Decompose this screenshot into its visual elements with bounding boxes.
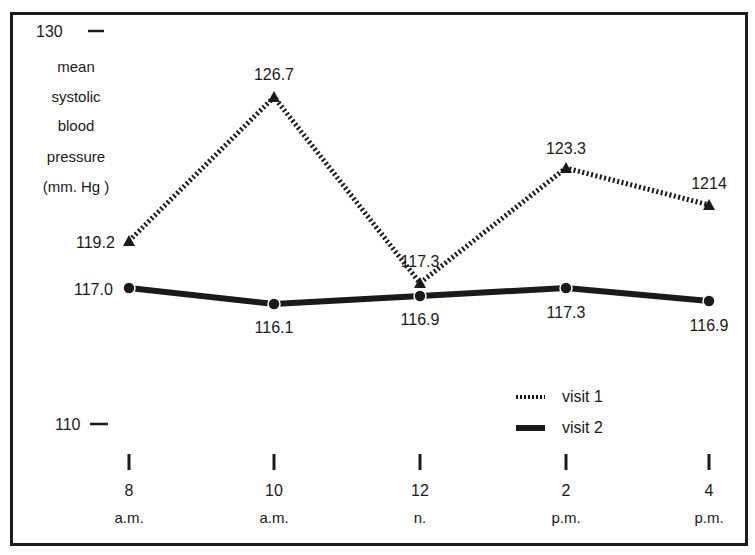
x-tick-period: p.m. — [694, 509, 723, 526]
data-label-v1-8am: 119.2 — [76, 234, 115, 251]
x-tick-number: 10 — [265, 482, 283, 499]
x-tick-number: 4 — [705, 482, 714, 499]
legend-visit-2-label: visit 2 — [562, 419, 603, 436]
svg-text:systolic: systolic — [51, 88, 101, 105]
svg-text:(mm. Hg ): (mm. Hg ) — [43, 178, 110, 195]
data-label-v1-2pm: 123.3 — [546, 140, 586, 157]
data-label-v1-10am: 126.7 — [254, 66, 294, 83]
triangle-marker — [268, 91, 280, 102]
chart-canvas: 130 110 mean systolic blood pressure (mm… — [0, 0, 755, 555]
x-tick-number: 2 — [562, 482, 571, 499]
data-label-v2-2pm: 117.3 — [547, 304, 586, 321]
data-label-v2-4pm: 116.9 — [690, 317, 729, 334]
x-tick-period: a.m. — [259, 509, 288, 526]
data-label-v2-8am: 117.0 — [74, 281, 113, 298]
data-label-v2-12n: 116.9 — [401, 311, 440, 328]
x-tick-period: p.m. — [551, 509, 580, 526]
x-axis: 8 10 12 2 4 a.m. a.m. n. p.m. p.m. — [114, 454, 723, 526]
svg-text:mean: mean — [57, 58, 95, 75]
circle-marker — [560, 282, 572, 294]
y-tick-130: 130 — [36, 23, 63, 40]
y-tick-110: 110 — [55, 416, 81, 433]
x-tick-number: 12 — [411, 482, 429, 499]
circle-marker — [414, 290, 426, 302]
legend-visit-1-label: visit 1 — [562, 388, 603, 405]
y-axis-label: mean systolic blood pressure (mm. Hg ) — [43, 58, 110, 195]
data-label-v1-12n: 117.3 — [401, 253, 440, 270]
circle-marker — [268, 298, 280, 310]
x-tick-period: n. — [414, 509, 427, 526]
x-tick-period: a.m. — [114, 509, 143, 526]
data-label-v1-4pm: 1214 — [691, 175, 727, 192]
svg-text:pressure: pressure — [47, 148, 105, 165]
x-tick-number: 8 — [125, 482, 134, 499]
svg-text:blood: blood — [58, 117, 95, 134]
circle-marker — [123, 282, 135, 294]
legend: visit 1 visit 2 — [516, 388, 603, 436]
data-label-v2-10am: 116.1 — [255, 319, 294, 336]
circle-marker — [703, 295, 715, 307]
